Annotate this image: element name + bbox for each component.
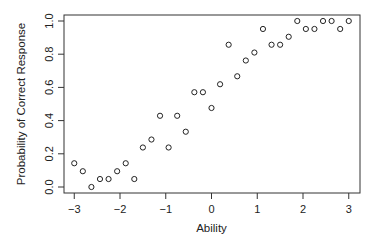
data-point [157, 113, 162, 118]
data-point [235, 74, 240, 79]
data-point [260, 26, 265, 31]
data-point [217, 82, 222, 87]
data-point [243, 58, 248, 63]
x-tick-label: 1 [254, 203, 260, 215]
data-point [269, 42, 274, 47]
plot-frame [64, 15, 360, 193]
data-point [106, 176, 111, 181]
data-point [226, 42, 231, 47]
data-point [278, 42, 283, 47]
data-point [303, 26, 308, 31]
data-point [89, 184, 94, 189]
x-tick-label: −2 [114, 203, 127, 215]
data-points [72, 18, 352, 189]
data-point [175, 113, 180, 118]
data-point [149, 137, 154, 142]
data-point [72, 161, 77, 166]
x-tick-label: −3 [68, 203, 81, 215]
x-tick-label: 0 [208, 203, 214, 215]
x-tick-label: 3 [346, 203, 352, 215]
data-point [97, 176, 102, 181]
data-point [295, 18, 300, 23]
data-point [115, 169, 120, 174]
data-point [329, 18, 334, 23]
y-tick-label: 1.0 [43, 13, 55, 28]
y-tick-label: 0.2 [43, 146, 55, 161]
data-point [312, 26, 317, 31]
data-point [338, 26, 343, 31]
y-tick-label: 0.0 [43, 179, 55, 194]
y-tick-label: 0.4 [43, 113, 55, 128]
data-point [209, 105, 214, 110]
data-point [286, 34, 291, 39]
y-axis-title: Probability of Correct Response [15, 23, 27, 185]
y-axis: 0.00.20.40.60.81.0 [43, 13, 64, 194]
data-point [252, 50, 257, 55]
data-point [320, 18, 325, 23]
x-tick-label: −1 [159, 203, 172, 215]
data-point [346, 18, 351, 23]
y-tick-label: 0.8 [43, 47, 55, 62]
plot-box [64, 15, 360, 193]
data-point [166, 145, 171, 150]
data-point [200, 90, 205, 95]
data-point [140, 145, 145, 150]
data-point [192, 90, 197, 95]
data-point [80, 169, 85, 174]
data-point [123, 161, 128, 166]
data-point [183, 129, 188, 134]
y-tick-label: 0.6 [43, 80, 55, 95]
data-point [132, 176, 137, 181]
x-tick-label: 2 [300, 203, 306, 215]
scatter-chart: −3−2−10123 0.00.20.40.60.81.0 Ability Pr… [0, 0, 378, 244]
x-axis: −3−2−10123 [68, 193, 352, 215]
x-axis-title: Ability [196, 222, 227, 234]
